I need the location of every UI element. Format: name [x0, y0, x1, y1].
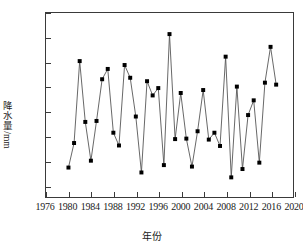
x-axis-tick	[46, 192, 47, 197]
x-axis-tick	[137, 192, 138, 197]
data-point	[246, 113, 250, 117]
x-axis-tick	[182, 192, 183, 197]
x-axis-tick-label: 1996	[149, 202, 168, 212]
data-point	[218, 144, 222, 148]
x-axis-tick	[204, 192, 205, 197]
x-axis-tick	[69, 192, 70, 197]
x-axis-tick	[159, 192, 160, 197]
y-axis-tick	[46, 112, 51, 113]
data-point	[229, 175, 233, 179]
data-point	[168, 32, 172, 36]
x-axis-tick-label: 2008	[216, 202, 235, 212]
data-point	[190, 165, 194, 169]
precipitation-line	[68, 34, 276, 177]
x-axis-tick-label: 1976	[35, 202, 54, 212]
y-axis-label: 降水量/mm	[0, 101, 12, 148]
data-point	[89, 159, 93, 163]
data-series-layer	[46, 13, 293, 197]
data-point	[263, 81, 267, 85]
data-point	[184, 137, 188, 141]
x-axis-tick-label: 1988	[103, 202, 122, 212]
x-axis-tick-label: 1984	[81, 202, 100, 212]
data-point	[235, 85, 239, 89]
y-axis-tick	[46, 162, 51, 163]
data-point	[78, 59, 82, 63]
x-axis-tick-label: 2012	[239, 202, 258, 212]
data-point	[201, 88, 205, 92]
data-point	[240, 167, 244, 171]
y-axis-tick	[46, 38, 51, 39]
data-point	[95, 119, 99, 123]
y-axis-tick	[46, 137, 51, 138]
x-axis-tick-label: 2020	[284, 202, 303, 212]
data-point	[274, 83, 278, 87]
data-point	[128, 76, 132, 80]
data-point	[145, 79, 149, 83]
x-axis-tick-label: 1980	[58, 202, 77, 212]
data-point	[100, 77, 104, 81]
data-point	[269, 45, 273, 49]
data-point	[83, 120, 87, 124]
data-point	[151, 93, 155, 97]
x-axis-tick	[227, 192, 228, 197]
data-point	[66, 166, 70, 170]
x-axis-tick-label: 2016	[262, 202, 281, 212]
data-point	[207, 138, 211, 142]
plot-area	[45, 12, 294, 198]
data-point	[111, 131, 115, 135]
data-point	[173, 137, 177, 141]
data-point	[134, 115, 138, 119]
data-point	[257, 161, 261, 165]
data-point	[106, 67, 110, 71]
data-point	[123, 63, 127, 67]
data-point	[252, 98, 256, 102]
data-point	[117, 144, 121, 148]
data-point	[162, 163, 166, 167]
y-axis-tick	[46, 13, 51, 14]
x-axis-tick	[250, 192, 251, 197]
x-axis-tick	[91, 192, 92, 197]
data-point	[139, 170, 143, 174]
y-axis-tick	[46, 87, 51, 88]
data-point	[156, 86, 160, 90]
x-axis-tick-label: 1992	[126, 202, 145, 212]
data-point	[196, 129, 200, 133]
data-point	[179, 91, 183, 95]
x-axis-tick-label: 2004	[194, 202, 213, 212]
x-axis-label: 年份	[0, 228, 303, 243]
x-axis-tick	[272, 192, 273, 197]
x-axis-tick	[295, 192, 296, 197]
y-axis-tick	[46, 63, 51, 64]
data-point	[72, 141, 76, 145]
data-point	[212, 131, 216, 135]
precipitation-chart-figure: 降水量/mm 300350400450500550600650 19761980…	[0, 0, 303, 250]
data-point	[224, 55, 228, 59]
x-axis-tick	[114, 192, 115, 197]
y-axis-tick	[46, 187, 51, 188]
x-axis-tick-label: 2000	[171, 202, 190, 212]
